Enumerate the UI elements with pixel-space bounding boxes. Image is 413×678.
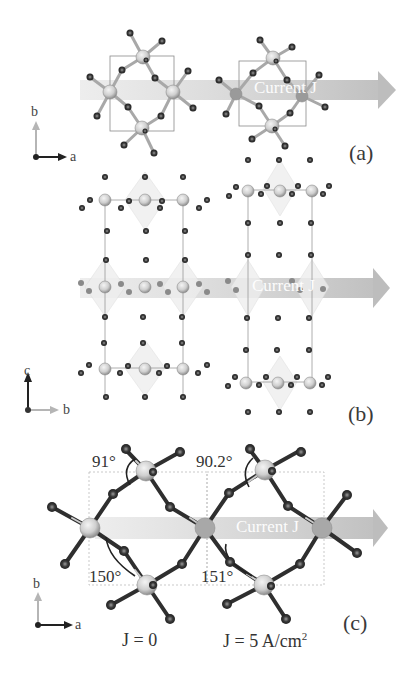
current-label-c: Current J <box>236 517 299 537</box>
panel-label-a: (a) <box>349 140 373 166</box>
current-label-b: Current J <box>252 276 315 296</box>
axis-label-b-horizontal: b <box>63 402 70 418</box>
condition-label-right: J = 5 A/cm2 <box>223 630 307 652</box>
axis-label-b-vertical: c <box>24 363 30 379</box>
angle-label-left-bottom: 150° <box>89 567 121 587</box>
panel-label-c: (c) <box>343 610 367 636</box>
axis-label-a-vertical: b <box>31 104 38 120</box>
angle-label-right-bottom: 151° <box>201 567 233 587</box>
angle-label-right-top: 90.2° <box>196 452 233 472</box>
axis-label-a-horizontal: a <box>70 149 76 165</box>
condition-label-right-exponent: 2 <box>302 630 308 642</box>
panel-label-b: (b) <box>348 401 374 427</box>
axes-indicator-a <box>32 121 67 161</box>
condition-label-left: J = 0 <box>122 630 157 651</box>
condition-label-right-text: J = 5 A/cm <box>223 631 302 651</box>
axis-label-c-vertical: b <box>33 576 40 592</box>
current-label-a: Current J <box>254 78 317 98</box>
axes-indicator-c <box>34 592 73 629</box>
axis-label-c-horizontal: a <box>75 617 81 633</box>
structure-b-left <box>78 172 210 400</box>
panel-b <box>24 157 390 415</box>
angle-label-left-top: 91° <box>92 452 116 472</box>
panel-a <box>32 30 396 162</box>
crystal-structure-figure: Current J Current J Current J (a) (b) (c… <box>0 0 413 678</box>
